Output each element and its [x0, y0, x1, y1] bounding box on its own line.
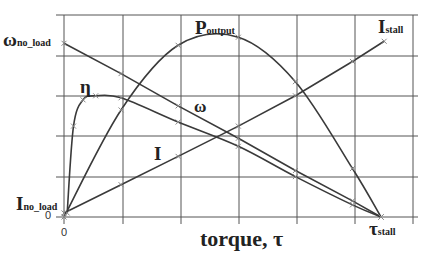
current-label: I [154, 144, 161, 163]
omega-no-load-subscript: no_load [17, 37, 51, 48]
x-tick-0: 0 [61, 227, 67, 238]
omega-no-load-label: ωno_load [3, 30, 51, 49]
p-output-subscript: output [207, 25, 235, 36]
i-stall-subscript: stall [385, 24, 403, 35]
i-stall-label: Istall [378, 17, 403, 36]
eta-label: η [80, 77, 91, 96]
curves [64, 34, 384, 217]
i-no-load-subscript: no_load [23, 201, 57, 212]
tau-stall-label: τstall [369, 219, 396, 238]
x-axis-label: torque, τ [200, 226, 283, 252]
omega-no-load-symbol: ω [3, 29, 17, 50]
grid [56, 15, 418, 224]
tau-stall-symbol: τ [369, 218, 378, 239]
p-output-symbol: P [195, 17, 207, 38]
omega-label: ω [194, 98, 206, 115]
p-output-label: Poutput [195, 18, 235, 37]
y-tick-0: 0 [45, 210, 51, 221]
tau-stall-subscript: stall [378, 226, 396, 237]
